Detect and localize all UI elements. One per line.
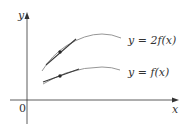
- curve-2fx: [42, 34, 121, 71]
- curve-fx: [43, 67, 120, 84]
- x-axis-arrow-icon: [172, 98, 179, 103]
- curve-label-2fx: y = 2f(x): [128, 35, 176, 46]
- x-axis-label: x: [172, 104, 178, 115]
- tangent-point-2fx: [58, 50, 61, 53]
- curve-label-fx: y = f(x): [128, 67, 169, 78]
- y-axis-label: y: [18, 10, 24, 21]
- origin-label: 0: [19, 103, 26, 114]
- y-axis-arrow-icon: [25, 12, 30, 19]
- tangent-point-fx: [58, 74, 61, 77]
